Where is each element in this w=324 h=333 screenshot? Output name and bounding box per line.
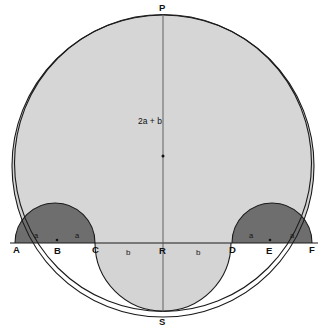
geometry-figure: A B C R D E F P S a a b b a a 2a + b [0,0,324,333]
point-label-R: R [159,245,166,256]
dot-center [162,155,165,158]
point-label-A: A [13,244,20,255]
diagram-canvas: A B C R D E F P S a a b b a a 2a + b [0,0,324,333]
point-label-C: C [92,244,99,255]
dot-E [269,239,272,242]
center-annotation: 2a + b [138,116,162,126]
point-label-F: F [309,244,315,255]
point-label-D: D [229,244,236,255]
point-label-B: B [54,245,61,256]
segment-label-b-right: b [196,248,201,257]
segment-label-b-left: b [126,248,131,257]
point-label-E: E [266,245,272,256]
point-label-S: S [159,316,165,327]
dot-B [56,239,59,242]
point-label-P: P [159,2,166,13]
